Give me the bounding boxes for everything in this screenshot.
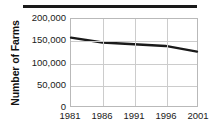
- horizontal-gridline: [71, 64, 197, 65]
- vertical-gridline: [167, 19, 168, 106]
- series-polyline: [71, 38, 197, 52]
- y-tick-label: 150,000: [18, 34, 66, 45]
- x-tick-label: 2001: [178, 110, 216, 121]
- y-tick-label: 100,000: [18, 57, 66, 68]
- x-axis-tick-labels: 19811986199119962001: [0, 110, 216, 126]
- horizontal-gridline: [71, 41, 197, 42]
- vertical-gridline: [103, 19, 104, 106]
- plot-area: [70, 18, 198, 107]
- horizontal-gridline: [71, 86, 197, 87]
- vertical-gridline: [135, 19, 136, 106]
- y-tick-label: 200,000: [18, 12, 66, 23]
- y-tick-label: 50,000: [18, 79, 66, 90]
- line-series: [71, 19, 197, 106]
- chart-figure: Number of Farms 050,000100,000150,000200…: [0, 0, 216, 135]
